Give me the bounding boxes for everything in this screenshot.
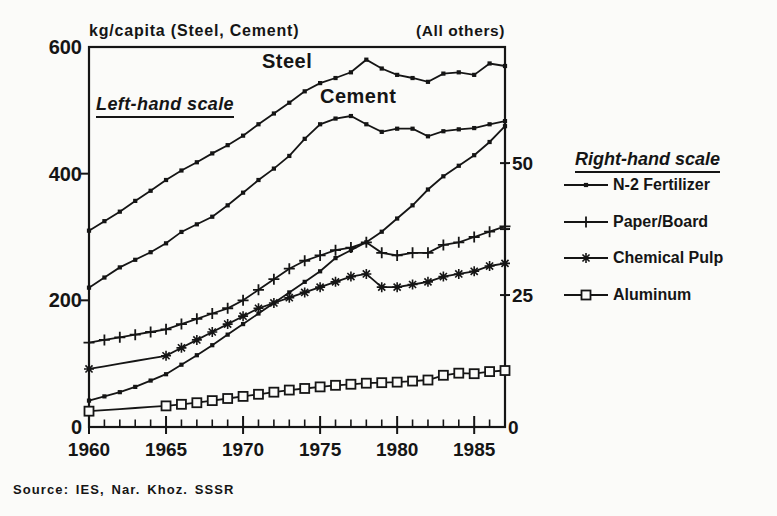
data-point-marker — [487, 140, 491, 144]
data-point-marker — [210, 215, 214, 219]
data-point-marker — [392, 250, 403, 261]
data-point-marker — [284, 293, 294, 303]
data-point-marker — [118, 265, 122, 269]
data-point-marker — [287, 154, 291, 158]
data-point-marker — [87, 229, 91, 233]
data-point-marker — [470, 369, 479, 378]
legend-item-label: N-2 Fertilizer — [613, 176, 710, 194]
data-point-marker — [99, 334, 110, 345]
data-point-marker — [380, 230, 384, 234]
data-point-marker — [164, 241, 168, 245]
data-point-marker — [241, 322, 245, 326]
data-point-marker — [423, 277, 433, 287]
data-point-marker — [222, 303, 233, 314]
data-point-marker — [438, 239, 449, 250]
x-tick-label-1985: 1985 — [453, 439, 496, 460]
x-tick-label-1965: 1965 — [145, 439, 188, 460]
data-point-marker — [333, 76, 337, 80]
data-point-marker — [349, 70, 353, 74]
left-tick-label-0: 0 — [71, 416, 82, 438]
data-point-marker — [472, 73, 476, 77]
data-point-marker — [407, 247, 418, 258]
data-point-marker — [253, 303, 263, 313]
data-point-marker — [316, 382, 325, 391]
legend-marker-glyph — [581, 253, 591, 263]
data-point-marker — [426, 134, 430, 138]
data-point-marker — [503, 64, 507, 68]
data-point-marker — [457, 127, 461, 131]
legend-marker-dot-icon — [562, 175, 610, 195]
chart-figure: 020040060002550196019651970197519801985 … — [0, 0, 777, 516]
data-point-marker — [395, 216, 399, 220]
left-tick-label-400: 400 — [49, 163, 82, 185]
data-point-marker — [393, 378, 402, 387]
data-point-marker — [300, 287, 310, 297]
data-point-marker — [133, 258, 137, 262]
data-point-marker — [195, 222, 199, 226]
data-point-marker — [364, 58, 368, 62]
data-point-marker — [133, 199, 137, 203]
x-axis-ticks — [89, 416, 505, 434]
data-point-marker — [457, 70, 461, 74]
data-point-marker — [376, 247, 387, 258]
data-point-marker — [195, 353, 199, 357]
data-point-marker — [145, 327, 156, 338]
data-point-marker — [254, 390, 263, 399]
data-point-marker — [503, 119, 507, 123]
data-point-marker — [226, 143, 230, 147]
data-point-marker — [208, 396, 217, 405]
data-point-marker — [114, 332, 125, 343]
data-point-marker — [272, 111, 276, 115]
left-scale-note: Left-hand scale — [96, 94, 234, 118]
x-tick-label-1970: 1970 — [222, 439, 264, 460]
legend-item-chemical-pulp: Chemical Pulp — [562, 240, 772, 277]
data-point-marker — [161, 351, 171, 361]
data-point-marker — [149, 189, 153, 193]
data-point-marker — [177, 400, 186, 409]
data-point-marker — [410, 76, 414, 80]
data-point-marker — [485, 261, 495, 271]
data-point-marker — [422, 247, 433, 258]
data-point-marker — [349, 114, 353, 118]
data-point-marker — [164, 372, 168, 376]
data-point-marker — [118, 210, 122, 214]
legend-marker-glyph — [582, 290, 591, 299]
legend-item-aluminum: Aluminum — [562, 277, 772, 314]
legend-item-paper-board: Paper/Board — [562, 204, 772, 241]
legend-marker-plus-icon — [562, 212, 610, 232]
x-tick-label-1960: 1960 — [68, 439, 110, 460]
data-point-marker — [364, 122, 368, 126]
data-point-marker — [118, 390, 122, 394]
data-point-marker — [454, 269, 464, 279]
data-point-marker — [472, 153, 476, 157]
data-point-marker — [441, 174, 445, 178]
data-point-marker — [256, 122, 260, 126]
data-point-marker — [441, 72, 445, 76]
right-tick-label-50: 50 — [512, 153, 533, 174]
data-point-marker — [346, 380, 355, 389]
data-point-marker — [176, 343, 186, 353]
data-point-marker — [176, 319, 187, 330]
series-markers-steel — [87, 58, 507, 233]
data-point-marker — [303, 137, 307, 141]
right-tick-label-0: 0 — [508, 417, 519, 438]
data-point-marker — [503, 124, 507, 128]
data-point-marker — [318, 269, 322, 273]
data-point-marker — [84, 337, 95, 348]
data-point-marker — [454, 369, 463, 378]
data-point-marker — [269, 298, 279, 308]
source-note: Source: IES, Nar. Khoz. SSSR — [13, 482, 235, 497]
data-point-marker — [195, 160, 199, 164]
data-point-marker — [333, 256, 337, 260]
data-point-marker — [410, 203, 414, 207]
data-point-marker — [299, 255, 310, 266]
series-line-n-2-fertilizer — [89, 126, 505, 400]
data-point-marker — [362, 379, 371, 388]
data-point-marker — [426, 187, 430, 191]
data-point-marker — [377, 282, 387, 292]
data-point-marker — [102, 394, 106, 398]
data-point-marker — [408, 377, 417, 386]
data-point-marker — [162, 401, 171, 410]
data-point-marker — [380, 66, 384, 70]
data-point-marker — [87, 399, 91, 403]
